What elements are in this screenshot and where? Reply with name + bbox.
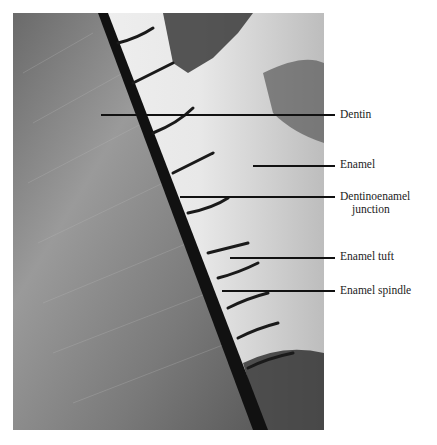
enamel-label: Enamel [340, 158, 375, 171]
dej-label-line1: Dentinoenamel [340, 190, 410, 203]
dej-leader [180, 196, 335, 198]
dentin-leader [101, 114, 335, 116]
tuft-label: Enamel tuft [340, 250, 394, 263]
dentin-label: Dentin [340, 108, 371, 121]
spindle-leader [222, 290, 335, 292]
dej-label: Dentinoenamel junction [340, 190, 410, 216]
enamel-leader [253, 165, 335, 167]
micrograph-photo [13, 13, 324, 430]
spindle-label: Enamel spindle [340, 284, 411, 297]
tuft-leader [230, 257, 335, 259]
dej-label-line2: junction [340, 203, 410, 216]
